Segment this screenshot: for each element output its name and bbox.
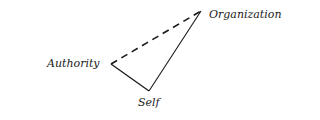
node-label-authority: Authority	[47, 58, 100, 69]
node-label-self: Self	[138, 97, 160, 108]
edge-self-organization	[149, 11, 201, 91]
node-label-organization: Organization	[209, 9, 281, 20]
edge-authority-self	[111, 64, 149, 91]
edge-authority-organization	[111, 11, 201, 64]
